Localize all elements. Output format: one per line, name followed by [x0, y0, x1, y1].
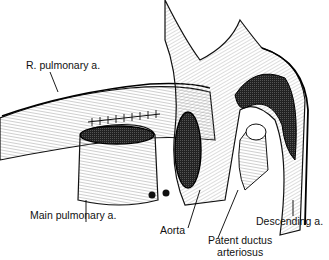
label-r-pulmonary-artery: R. pulmonary a. — [26, 59, 100, 71]
label-main-pulmonary-artery: Main pulmonary a. — [30, 209, 116, 221]
label-pda-line1: Patent ductus — [208, 234, 272, 246]
ligature-clip — [149, 192, 156, 199]
aorta-lumen — [175, 112, 201, 188]
label-pda-line2: arteriosus — [208, 246, 272, 258]
label-aorta: Aorta — [160, 224, 185, 236]
illustration: R. pulmonary a. Main pulmonary a. Aorta … — [0, 0, 329, 260]
label-descending-aorta: Descending a. — [256, 215, 323, 227]
main-pulmonary-lumen — [80, 126, 154, 144]
label-patent-ductus-arteriosus: Patent ductus arteriosus — [208, 234, 272, 258]
